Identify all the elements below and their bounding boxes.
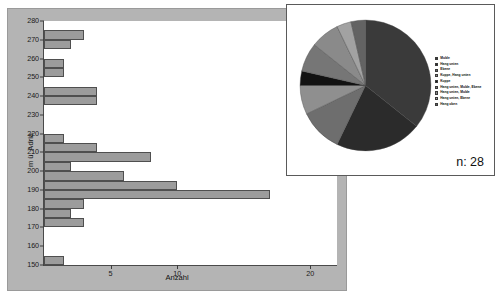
legend-item-label: Ebene xyxy=(440,68,450,71)
histogram-bar xyxy=(44,30,84,39)
legend-item-label: Hang unten, Ebene xyxy=(440,97,470,100)
legend-item-label: Hang unten xyxy=(440,63,458,66)
legend-item: Kuppe, Hang unten xyxy=(435,74,481,77)
histogram-bar xyxy=(44,143,97,152)
legend-item: Hang unten, Ebene xyxy=(435,97,481,100)
legend-item-label: Hang oben xyxy=(440,103,457,106)
legend-item-label: Kuppe xyxy=(440,80,450,83)
legend-swatch-icon xyxy=(435,97,438,100)
histogram-bar xyxy=(44,40,71,49)
y-tick-label: 280 xyxy=(5,17,44,24)
y-tick-label: 270 xyxy=(5,36,44,43)
y-tick-label: 180 xyxy=(5,205,44,212)
pie-chart-wrapper xyxy=(299,19,432,152)
histogram-bar xyxy=(44,190,270,199)
legend-item-label: Mulde xyxy=(440,57,450,60)
histogram-bar xyxy=(44,181,177,190)
pie-chart xyxy=(299,19,432,152)
legend-item: Hang unten, Mulde xyxy=(435,91,481,94)
figure-root: m ü. Adria 15016017018019020021022023024… xyxy=(0,0,499,299)
legend-item: Kuppe xyxy=(435,80,481,83)
pie-legend: MuldeHang untenEbeneKuppe, Hang untenKup… xyxy=(435,57,481,106)
y-tick-label: 170 xyxy=(5,224,44,231)
histogram-bar xyxy=(44,96,97,105)
legend-item-label: Kuppe, Hang unten xyxy=(440,74,470,77)
y-tick-label: 190 xyxy=(5,186,44,193)
legend-swatch-icon xyxy=(435,57,438,60)
x-axis-title: Anzahl xyxy=(8,273,346,282)
legend-swatch-icon xyxy=(435,86,438,89)
histogram-bar xyxy=(44,152,151,161)
legend-swatch-icon xyxy=(435,91,438,94)
histogram-bar xyxy=(44,162,71,171)
legend-swatch-icon xyxy=(435,103,438,106)
histogram-bar xyxy=(44,87,97,96)
y-tick-label: 220 xyxy=(5,130,44,137)
histogram-bar xyxy=(44,209,71,218)
legend-swatch-icon xyxy=(435,63,438,66)
sample-size-label: n: 28 xyxy=(456,155,484,169)
y-tick-label: 200 xyxy=(5,168,44,175)
y-tick-label: 250 xyxy=(5,74,44,81)
histogram-bar xyxy=(44,199,84,208)
legend-item: Hang oben xyxy=(435,103,481,106)
histogram-bar xyxy=(44,134,64,143)
histogram-bar xyxy=(44,218,84,227)
histogram-bar xyxy=(44,68,64,77)
y-tick-label: 230 xyxy=(5,111,44,118)
legend-swatch-icon xyxy=(435,74,438,77)
legend-item: Hang unten xyxy=(435,63,481,66)
histogram-bar xyxy=(44,171,124,180)
pie-panel: MuldeHang untenEbeneKuppe, Hang untenKup… xyxy=(286,4,495,176)
y-tick-label: 240 xyxy=(5,92,44,99)
legend-item: Hang unten, Mulde, Ebene xyxy=(435,86,481,89)
legend-item-label: Hang unten, Mulde xyxy=(440,91,470,94)
legend-item: Mulde xyxy=(435,57,481,60)
histogram-bar xyxy=(44,59,64,68)
y-tick-label: 150 xyxy=(5,261,44,268)
histogram-bar xyxy=(44,256,64,265)
legend-item: Ebene xyxy=(435,68,481,71)
y-tick-label: 210 xyxy=(5,149,44,156)
y-tick-label: 260 xyxy=(5,55,44,62)
legend-item-label: Hang unten, Mulde, Ebene xyxy=(440,86,481,89)
y-tick-label: 160 xyxy=(5,243,44,250)
legend-swatch-icon xyxy=(435,80,438,83)
legend-swatch-icon xyxy=(435,69,438,72)
